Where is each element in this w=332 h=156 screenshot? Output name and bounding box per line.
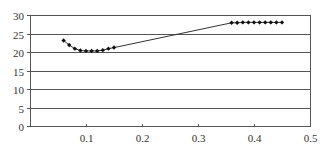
diamond-marker bbox=[229, 21, 233, 25]
x-axis-tick-labels: 0.10.20.30.40.5 bbox=[80, 132, 318, 144]
diamond-marker bbox=[106, 46, 110, 50]
diamond-marker bbox=[274, 20, 278, 24]
y-tick-label: 5 bbox=[19, 103, 25, 115]
x-tick-label: 0.3 bbox=[192, 132, 206, 144]
y-tick-label: 25 bbox=[13, 29, 25, 41]
y-tick-label: 15 bbox=[13, 66, 25, 78]
diamond-marker bbox=[101, 48, 105, 52]
diamond-marker bbox=[235, 21, 239, 25]
data-series bbox=[61, 20, 284, 53]
y-tick-label: 30 bbox=[13, 10, 25, 22]
x-tick-label: 0.5 bbox=[304, 132, 318, 144]
diamond-marker bbox=[246, 20, 250, 24]
diamond-marker bbox=[263, 20, 267, 24]
y-tick-label: 10 bbox=[13, 84, 25, 96]
diamond-marker bbox=[241, 20, 245, 24]
series-line bbox=[64, 22, 282, 51]
line-chart: 051015202530 0.10.20.30.40.5 bbox=[0, 0, 332, 156]
diamond-marker bbox=[112, 45, 116, 49]
y-tick-label: 0 bbox=[19, 121, 25, 133]
y-axis-tick-labels: 051015202530 bbox=[13, 10, 25, 133]
x-tick-label: 0.2 bbox=[136, 132, 150, 144]
y-tick-label: 20 bbox=[13, 47, 25, 59]
diamond-marker bbox=[280, 20, 284, 24]
horizontal-gridlines bbox=[30, 16, 310, 109]
x-tick-label: 0.4 bbox=[248, 132, 262, 144]
diamond-marker bbox=[269, 20, 273, 24]
diamond-marker bbox=[257, 20, 261, 24]
x-tick-label: 0.1 bbox=[80, 132, 94, 144]
diamond-marker bbox=[252, 20, 256, 24]
